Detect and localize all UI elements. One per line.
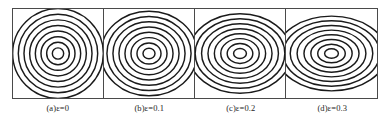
caption-row: (a)ε=0 (b)ε=0.1 (c)ε=0.2 (d)ε=0.3 bbox=[12, 101, 378, 119]
contour-plot-b bbox=[104, 9, 194, 98]
contour-line bbox=[119, 27, 179, 80]
contour-panel-d bbox=[286, 9, 377, 98]
contour-line bbox=[325, 49, 339, 58]
contour-line bbox=[304, 35, 359, 72]
contour-panel-row bbox=[12, 8, 378, 99]
contour-plot-d bbox=[286, 9, 377, 98]
contour-panel-a bbox=[13, 9, 104, 98]
panel-caption-c: (c)ε=0.2 bbox=[195, 101, 287, 119]
panel-caption-a: (a)ε=0 bbox=[12, 101, 104, 119]
contour-line bbox=[297, 30, 366, 77]
contour-line bbox=[13, 9, 103, 98]
contour-panel-b bbox=[104, 9, 195, 98]
contour-line bbox=[52, 48, 63, 59]
contour-line bbox=[227, 44, 253, 64]
contour-line bbox=[24, 20, 92, 87]
contour-line bbox=[234, 49, 247, 59]
contour-line bbox=[318, 44, 346, 63]
contour-panel-c bbox=[195, 9, 286, 98]
contour-line bbox=[290, 25, 373, 81]
contour-line bbox=[113, 22, 185, 85]
contour-figure: (a)ε=0 (b)ε=0.1 (c)ε=0.2 (d)ε=0.3 bbox=[0, 0, 389, 123]
contour-line bbox=[208, 29, 272, 79]
contour-line bbox=[202, 24, 279, 84]
contour-line bbox=[143, 48, 155, 59]
contour-line bbox=[137, 43, 161, 64]
contour-plot-a bbox=[13, 9, 103, 98]
contour-line bbox=[214, 34, 265, 74]
contour-line bbox=[35, 31, 80, 76]
contour-line bbox=[30, 25, 87, 81]
contour-line bbox=[104, 11, 194, 96]
panel-caption-b: (b)ε=0.1 bbox=[104, 101, 196, 119]
contour-line bbox=[47, 42, 70, 64]
contour-line bbox=[286, 16, 377, 91]
contour-line bbox=[125, 32, 173, 74]
contour-plot-c bbox=[195, 9, 285, 98]
panel-caption-d: (d)ε=0.3 bbox=[287, 101, 379, 119]
